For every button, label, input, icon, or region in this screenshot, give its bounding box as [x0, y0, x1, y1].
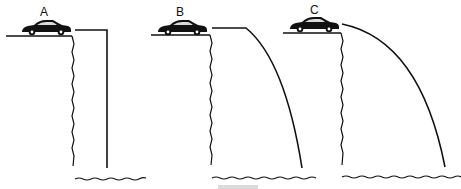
ground: [75, 178, 146, 180]
car-icon: [290, 17, 339, 32]
panel-c: C: [283, 3, 461, 178]
ground: [212, 177, 316, 179]
panel-label-a: A: [40, 5, 48, 19]
panel-a: A: [6, 5, 146, 180]
cliff-diagram: A B C: [0, 0, 461, 189]
trajectory-a: [75, 30, 107, 168]
car-icon: [158, 20, 207, 35]
caption-fragment: [218, 185, 258, 189]
cliff-face: [341, 33, 343, 165]
cliff-face: [210, 35, 212, 165]
cliff-face: [72, 36, 74, 166]
trajectory-b: [212, 28, 302, 168]
trajectory-c: [342, 24, 445, 167]
panel-label-c: C: [310, 3, 319, 17]
panel-b: B: [151, 5, 316, 179]
car-icon: [22, 20, 71, 35]
panel-label-b: B: [176, 5, 184, 19]
ground: [342, 176, 461, 178]
